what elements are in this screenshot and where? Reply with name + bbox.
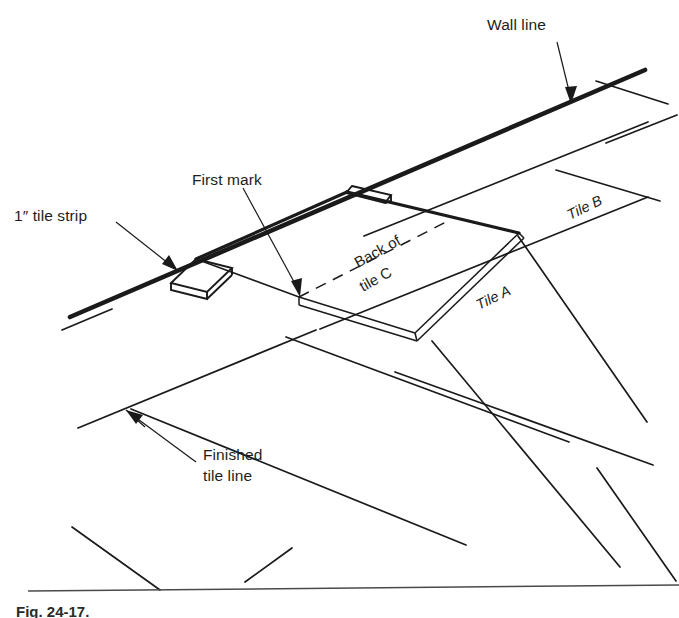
figure-caption: Fig. 24-17. — [16, 604, 89, 618]
grid-line-cross-1 — [432, 341, 620, 567]
tile-layout-diagram: Wall line First mark 1″ tile strip Back … — [0, 0, 679, 618]
label-wall-line: Wall line — [487, 16, 546, 33]
figure-bottom-rule — [28, 585, 679, 591]
tile-c-edge-top-right — [347, 192, 519, 233]
label-finished-tile-line-line1: Finished — [203, 446, 262, 463]
tile-strip-side-face — [207, 275, 232, 299]
grid-line-diamond-lower-left — [131, 409, 466, 545]
grid-line-wall-branch-mid — [556, 170, 660, 201]
grid-line-wall-parallel-3 — [364, 122, 648, 236]
tile-c-edge-lower-left — [196, 259, 299, 297]
label-tile-b: Tile B — [564, 192, 605, 223]
tile-c-edge-upper-left — [196, 192, 347, 259]
figure-illustration: Wall line First mark 1″ tile strip Back … — [0, 0, 679, 618]
grid-line-diamond-mid — [286, 337, 569, 442]
tile-strip-object — [171, 259, 232, 299]
label-tile-strip: 1″ tile strip — [14, 207, 87, 224]
grid-line-wall-parallel-1 — [78, 330, 316, 428]
grid-line-foreground-mid — [245, 548, 292, 582]
label-back-of-tile-c-line1: Back of — [351, 231, 404, 271]
grid-line-foreground-left — [72, 527, 160, 590]
tile-strip-arrowhead — [162, 255, 178, 271]
grid-line-wall-parallel-4 — [606, 115, 677, 143]
tile-strip-top-face — [171, 259, 232, 292]
floor-grid — [62, 81, 677, 590]
grid-line-cross-2 — [518, 236, 647, 422]
finished-tile-line-leader — [131, 414, 196, 462]
annotation-leaders — [116, 42, 577, 462]
tile-c-thickness-front — [299, 305, 417, 341]
label-finished-tile-line-line2: tile line — [203, 467, 252, 484]
label-tile-a: Tile A — [473, 282, 513, 312]
tile-strip-leader — [116, 222, 173, 267]
grid-line-cross-3 — [597, 468, 676, 581]
label-first-mark: First mark — [192, 171, 262, 188]
finished-tile-line-arrow-barb — [126, 410, 145, 427]
tile-c-edge-front — [299, 297, 415, 333]
